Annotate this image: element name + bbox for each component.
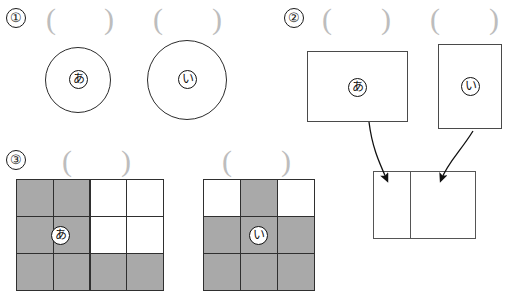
- problem-number-3: ③: [6, 150, 26, 170]
- answer-paren-open-1b[interactable]: (: [153, 4, 163, 34]
- grid-cell: [204, 180, 240, 216]
- answer-paren-open-2a[interactable]: (: [322, 4, 332, 34]
- grid-cell: [127, 254, 163, 290]
- answer-paren-open-3b[interactable]: (: [222, 146, 232, 176]
- grid-a: [16, 179, 164, 291]
- kana-label-a-rectangle: あ: [348, 78, 367, 97]
- kana-label-a-circle: あ: [69, 70, 88, 89]
- grid-cell: [278, 254, 314, 290]
- answer-paren-close-1b[interactable]: ): [212, 4, 222, 34]
- grid-cell: [91, 180, 127, 216]
- answer-paren-close-2b[interactable]: ): [489, 4, 499, 34]
- answer-paren-open-1a[interactable]: (: [46, 4, 56, 34]
- grid-cell: [241, 180, 277, 216]
- kana-label-a-grid: あ: [51, 226, 70, 245]
- grid-cell: [278, 217, 314, 253]
- answer-paren-open-2b[interactable]: (: [430, 4, 440, 34]
- answer-paren-open-3a[interactable]: (: [62, 146, 72, 176]
- worksheet-page: ① ( ) ( ) あ い ② ( ) ( ) あ い ③ ( ) ( ) あ …: [0, 0, 524, 291]
- target-square-right: [410, 171, 476, 239]
- problem-number-2: ②: [284, 8, 304, 28]
- grid-cell: [204, 254, 240, 290]
- grid-cell: [17, 217, 53, 253]
- answer-paren-close-2a[interactable]: ): [381, 4, 391, 34]
- grid-cell: [91, 217, 127, 253]
- kana-label-i-grid: い: [249, 226, 268, 245]
- grid-cell: [127, 180, 163, 216]
- grid-cell: [17, 180, 53, 216]
- answer-paren-close-3a[interactable]: ): [121, 146, 131, 176]
- grid-cell: [91, 254, 127, 290]
- grid-cell: [17, 254, 53, 290]
- answer-paren-close-1a[interactable]: ): [104, 4, 114, 34]
- grid-cell: [127, 217, 163, 253]
- answer-paren-close-3b[interactable]: ): [281, 146, 291, 176]
- problem-number-1: ①: [6, 8, 26, 28]
- grid-cell: [54, 254, 90, 290]
- grid-cell: [204, 217, 240, 253]
- grid-cell: [278, 180, 314, 216]
- kana-label-i-rectangle: い: [461, 77, 480, 96]
- grid-cell: [54, 180, 90, 216]
- grid-cell: [241, 254, 277, 290]
- kana-label-i-circle: い: [178, 70, 197, 89]
